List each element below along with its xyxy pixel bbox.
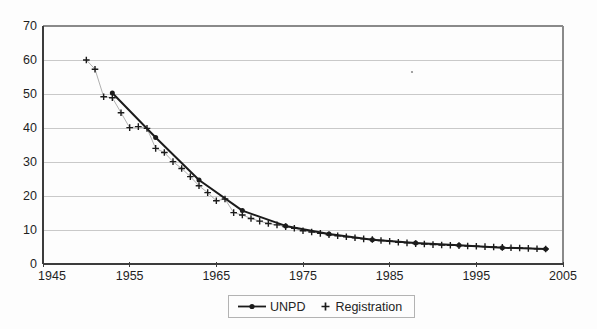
registration-marker (152, 145, 159, 152)
unpd-marker (153, 135, 158, 140)
y-axis-label: 70 (23, 19, 37, 33)
legend-label-unpd: UNPD (270, 300, 305, 314)
x-axis-label: 1975 (289, 269, 317, 283)
unpd-marker (500, 245, 505, 250)
x-axis-label: 2005 (549, 269, 577, 283)
legend-item-unpd: UNPD (238, 300, 305, 314)
y-axis-label: 50 (23, 87, 37, 101)
x-axis-label: 1965 (202, 269, 230, 283)
y-axis-label: 40 (23, 121, 37, 135)
registration-marker (248, 215, 255, 222)
x-axis-label: 1995 (462, 269, 490, 283)
registration-marker (126, 124, 133, 131)
unpd-marker (370, 237, 375, 242)
unpd-marker (110, 90, 115, 95)
unpd-line (112, 93, 545, 249)
plus-marker-icon (320, 301, 331, 312)
chart-figure: 0102030405060701945195519651975198519952… (0, 0, 597, 329)
registration-connector (86, 60, 545, 249)
unpd-marker (240, 208, 245, 213)
unpd-marker (413, 240, 418, 245)
unpd-line-marker-icon (238, 302, 266, 311)
unpd-marker (457, 243, 462, 248)
x-axis-label: 1985 (376, 269, 404, 283)
legend-item-registration: Registration (320, 300, 402, 314)
unpd-marker (327, 232, 332, 237)
y-axis-label: 10 (23, 223, 37, 237)
y-axis-label: 0 (30, 257, 37, 271)
registration-marker (256, 218, 263, 225)
unpd-marker (283, 223, 288, 228)
y-axis-label: 30 (23, 155, 37, 169)
registration-marker (230, 209, 237, 216)
chart-legend: UNPD Registration (228, 295, 415, 318)
x-axis-label: 1945 (38, 269, 66, 283)
registration-marker (118, 109, 125, 116)
unpd-marker (543, 247, 548, 252)
mortality-trend-line-chart: 0102030405060701945195519651975198519952… (0, 0, 597, 292)
legend-label-registration: Registration (335, 300, 402, 314)
scan-speck (411, 71, 413, 73)
registration-marker (135, 123, 142, 130)
y-axis-label: 60 (23, 53, 37, 67)
x-axis-label: 1955 (116, 269, 144, 283)
y-axis-label: 20 (23, 189, 37, 203)
unpd-marker (197, 178, 202, 183)
